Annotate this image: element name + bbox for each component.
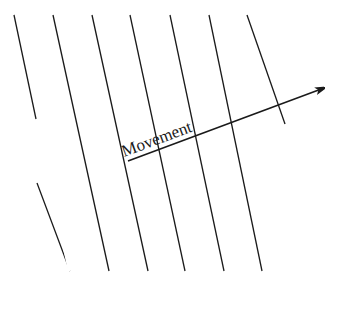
line-6 [209, 15, 262, 271]
movement-label: Movement [119, 117, 195, 161]
first-line-upper [14, 15, 36, 119]
line-7 [247, 15, 285, 124]
movement-diagram: Movement [0, 0, 343, 315]
